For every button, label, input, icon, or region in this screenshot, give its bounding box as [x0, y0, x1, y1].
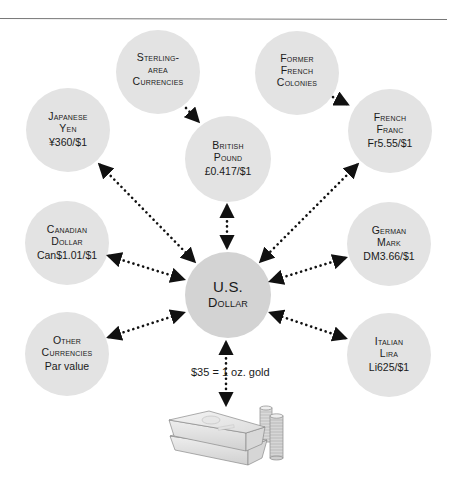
- exchange-rate: Li625/$1: [344, 362, 434, 374]
- label-line: Italian: [344, 336, 434, 348]
- label-line: area: [113, 64, 203, 76]
- arrow-lira-usd: [271, 313, 345, 338]
- label-italian-lira: Italian Lira Li625/$1: [344, 336, 434, 373]
- label-sterling-area: Sterling- area Currencies: [113, 52, 203, 87]
- label-line: German: [344, 225, 434, 237]
- label-line: Currencies: [22, 347, 112, 359]
- label-line: Colonies: [252, 77, 342, 89]
- label-line: French: [252, 65, 342, 77]
- arrow-french-colonies-to-franc: [333, 97, 347, 104]
- arrow-franc-usd: [261, 165, 357, 261]
- arrow-canadian-usd: [109, 256, 183, 279]
- label-japanese-yen: Japanese Yen ¥360/$1: [23, 111, 113, 148]
- exchange-rate: ¥360/$1: [23, 137, 113, 149]
- label-line: Yen: [23, 123, 113, 135]
- label-line: Japanese: [23, 111, 113, 123]
- exchange-rate: Fr5.55/$1: [345, 138, 435, 150]
- label-line: Mark: [344, 237, 434, 249]
- coin-stack-front: [270, 414, 283, 460]
- label-line: French: [345, 112, 435, 124]
- arrow-other-usd: [109, 313, 183, 337]
- top-rule: [0, 19, 447, 20]
- label-line: Currencies: [113, 76, 203, 88]
- gold-peg-label: $35 = 1 oz. gold: [191, 366, 270, 378]
- exchange-rate: Can$1.01/$1: [22, 250, 112, 262]
- exchange-rate: £0.417/$1: [183, 166, 273, 178]
- label-former-french-colonies: Former French Colonies: [252, 53, 342, 88]
- label-line: Other: [22, 335, 112, 347]
- label-british-pound: British Pound £0.417/$1: [183, 140, 273, 177]
- label-line: U.S.: [183, 279, 273, 296]
- label-line: Lira: [344, 348, 434, 360]
- label-line: Former: [252, 53, 342, 65]
- label-german-mark: German Mark DM3.66/$1: [344, 225, 434, 262]
- label-us-dollar: U.S. Dollar: [183, 279, 273, 310]
- label-line: Sterling-: [113, 52, 203, 64]
- gold-bars-and-coins-icon: [169, 406, 283, 465]
- label-french-franc: French Franc Fr5.55/$1: [345, 112, 435, 149]
- exchange-rate: DM3.66/$1: [344, 251, 434, 263]
- label-canadian-dollar: Canadian Dollar Can$1.01/$1: [22, 224, 112, 261]
- label-line: Pound: [183, 152, 273, 164]
- exchange-rate: Par value: [22, 361, 112, 373]
- label-other-currencies: Other Currencies Par value: [22, 335, 112, 372]
- arrow-yen-usd: [100, 165, 194, 261]
- label-line: British: [183, 140, 273, 152]
- arrow-mark-usd: [271, 258, 345, 281]
- label-line: Dollar: [183, 296, 273, 311]
- arrow-sterling-to-pound: [186, 108, 198, 121]
- label-line: Canadian: [22, 224, 112, 236]
- label-line: Dollar: [22, 236, 112, 248]
- label-line: Franc: [345, 124, 435, 136]
